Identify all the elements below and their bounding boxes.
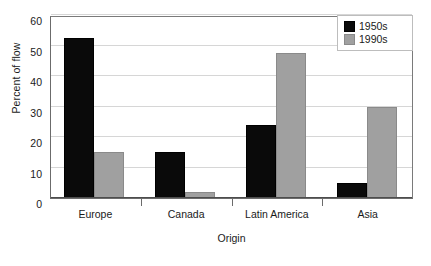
x-axis-title: Origin	[50, 232, 413, 244]
x-axis-category-label: Canada	[141, 207, 232, 221]
legend-swatch-icon	[344, 34, 355, 45]
x-axis-tick	[141, 199, 142, 206]
x-axis-tick	[322, 199, 323, 206]
legend-item-label: 1990s	[359, 34, 388, 45]
bar	[64, 38, 94, 198]
x-axis-category-label: Europe	[50, 207, 141, 221]
bar	[276, 53, 306, 198]
bar	[155, 152, 185, 198]
bar-group	[142, 17, 233, 198]
bar-chart: Percent of flow 0102030405060 EuropeCana…	[0, 0, 431, 266]
legend-item[interactable]: 1950s	[344, 20, 408, 33]
bar	[246, 125, 276, 198]
x-axis-category-label: Latin America	[232, 207, 323, 221]
bar	[367, 107, 397, 199]
chart-legend: 1950s1990s	[337, 15, 413, 51]
legend-item[interactable]: 1990s	[344, 33, 408, 46]
bar	[94, 152, 124, 198]
legend-item-label: 1950s	[359, 21, 388, 32]
bar	[337, 183, 367, 198]
x-axis-category-label: Asia	[322, 207, 413, 221]
x-axis-baseline	[51, 197, 412, 198]
bar-group	[233, 17, 324, 198]
x-axis-ticks	[50, 199, 413, 206]
y-axis-tick-labels: 0102030405060	[0, 16, 46, 199]
legend-swatch-icon	[344, 21, 355, 32]
x-axis-tick	[232, 199, 233, 206]
bar-group	[51, 17, 142, 198]
x-axis-category-labels: EuropeCanadaLatin AmericaAsia	[50, 207, 413, 223]
